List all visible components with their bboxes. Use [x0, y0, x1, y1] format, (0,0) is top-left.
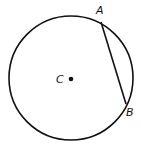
- diagram-canvas: C A B: [0, 0, 141, 144]
- center-label: C: [56, 73, 64, 86]
- circle-diagram: C A B: [0, 0, 141, 144]
- chord-ab: [101, 22, 126, 104]
- center-point: [69, 77, 74, 82]
- point-a-label: A: [95, 4, 104, 17]
- point-b-label: B: [126, 106, 134, 119]
